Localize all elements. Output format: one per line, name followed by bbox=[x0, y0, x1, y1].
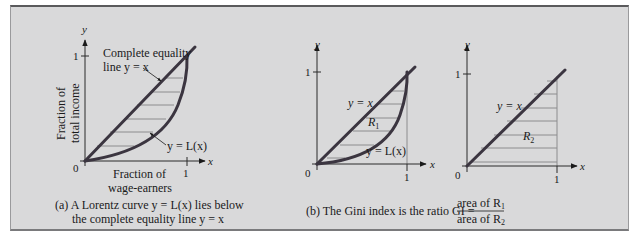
panel-a-lorenz-pointer-arrow bbox=[150, 133, 166, 145]
panel-b-caption: (b) The Gini index is the ratio GI = are… bbox=[306, 196, 505, 227]
panel-b-right-equality-line bbox=[467, 70, 565, 166]
panel-a-equality-label-line1: Complete equality bbox=[103, 46, 191, 60]
panel-a-caption-line1: (a) A Lorentz curve y = L(x) lies below bbox=[55, 198, 244, 212]
panel-b-caption-text: (b) The Gini index is the ratio GI = bbox=[306, 204, 475, 218]
panel-b-fraction-denominator: area of R2 bbox=[457, 212, 505, 227]
panel-b-left-x-tick-label: 1 bbox=[404, 171, 410, 183]
panel-b-right-origin-label: 0 bbox=[455, 169, 461, 181]
panel-b-right-plot: y x 1 1 0 y = x R2 bbox=[455, 38, 585, 185]
panel-b-left-lorenz-label: y = L(x) bbox=[366, 144, 406, 158]
panel-a-y-axis-label: y bbox=[81, 23, 87, 35]
panel-b-left-region-label: R1 bbox=[367, 115, 379, 131]
panel-a-origin-label: 0 bbox=[73, 162, 79, 174]
panel-a-x-axis-label: x bbox=[207, 155, 213, 167]
panel-b-fraction-numerator: area of R1 bbox=[457, 196, 505, 211]
panel-b-right-line-label: y = x bbox=[496, 99, 522, 113]
panel-b-left-x-axis-label: x bbox=[429, 158, 435, 170]
panel-a-x-tick-label: 1 bbox=[183, 167, 189, 179]
panel-b-left-y-tick-label: 1 bbox=[305, 66, 311, 78]
panel-a-plot: y x 1 1 0 Fraction of total income Fract… bbox=[54, 23, 244, 226]
panel-b-right-x-tick-label: 1 bbox=[554, 173, 560, 185]
panel-a-x-title-line2: wage-earners bbox=[108, 181, 172, 195]
panel-a-y-title-line2: total income bbox=[68, 83, 82, 143]
panel-b-left-line-label: y = x bbox=[347, 96, 373, 110]
panel-b-left-origin-label: 0 bbox=[305, 167, 311, 179]
panel-b-left-plot: y x 1 1 0 y = x R1 y = L(x) bbox=[305, 38, 435, 183]
figure-svg: y x 1 1 0 Fraction of total income Fract… bbox=[0, 0, 636, 244]
panel-b-right-x-axis-label: x bbox=[579, 160, 585, 172]
panel-a-x-title-line1: Fraction of bbox=[113, 167, 166, 181]
panel-a-caption-line2: the complete equality line y = x bbox=[72, 212, 224, 226]
panel-b-right-region-label: R2 bbox=[522, 129, 534, 145]
panel-a-y-title-line1: Fraction of bbox=[54, 87, 68, 140]
panel-a-lorenz-label: y = L(x) bbox=[167, 139, 207, 153]
panel-b-right-y-axis-label: y bbox=[464, 38, 470, 50]
panel-a-y-tick-label: 1 bbox=[73, 50, 79, 62]
panel-b-right-y-tick-label: 1 bbox=[455, 68, 461, 80]
panel-b-left-y-axis-label: y bbox=[314, 38, 320, 50]
panel-a-equality-label-line2: line y = x bbox=[103, 60, 149, 74]
